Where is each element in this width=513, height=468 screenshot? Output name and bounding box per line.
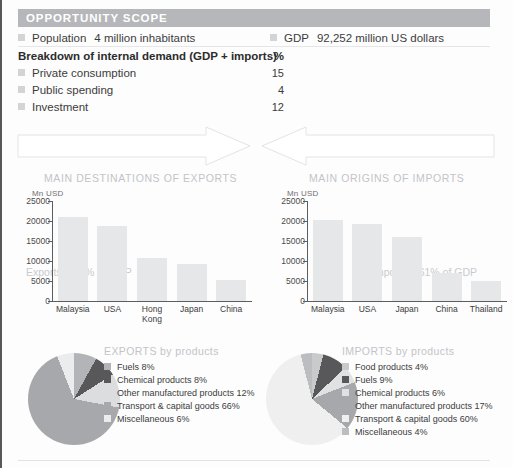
exports-chart-title: MAIN DESTINATIONS OF EXPORTS — [44, 172, 237, 184]
x-axis-labels: MalaysiaUSAJapanChinaThailand — [308, 304, 506, 314]
bar-slot — [172, 201, 212, 301]
population-value: 4 million inhabitants — [94, 32, 195, 44]
legend-label: Fuels 9% — [355, 375, 393, 385]
trade-flow-band: Exports: 180% of GDP Imports: 161% of GD… — [0, 126, 513, 172]
gdp-label: GDP — [284, 32, 309, 44]
y-axis-tick-label: 5000 — [10, 276, 50, 286]
legend-label: Transport & capital goods 66% — [117, 401, 240, 411]
plot-area: 2500020000150001000050000MalaysiaUSAJapa… — [263, 201, 513, 311]
breakdown-value-public-spending: 4 — [264, 84, 284, 96]
bar — [137, 258, 167, 301]
bar — [313, 220, 343, 301]
gdp-value: 92,252 million US dollars — [317, 32, 444, 44]
x-axis-tick-label: China — [427, 304, 467, 314]
x-axis-tick-label: China — [211, 304, 251, 324]
legend-swatch-icon — [104, 389, 111, 396]
legend-swatch-icon — [342, 402, 349, 409]
legend-item: Other manufactured products 17% — [342, 399, 513, 412]
x-axis-tick-label: Malaysia — [308, 304, 348, 314]
bar-series — [53, 201, 251, 301]
legend-swatch-icon — [104, 402, 111, 409]
bar — [471, 281, 501, 301]
gdp-group: GDP 92,252 million US dollars — [270, 29, 444, 46]
legend-item: Miscellaneous 6% — [104, 412, 279, 425]
x-axis-tick-label: Malaysia — [53, 304, 93, 324]
y-axis-tick-label: 15000 — [265, 236, 305, 246]
bar-slot — [466, 201, 506, 301]
bar-slot — [93, 201, 133, 301]
breakdown-value-investment: 12 — [264, 101, 284, 113]
legend-item: Transport & capital goods 66% — [104, 399, 279, 412]
bar-slot — [348, 201, 388, 301]
bullet-square-icon — [18, 69, 25, 76]
legend-item: Chemical products 8% — [104, 373, 279, 386]
y-axis-tick-label: 10000 — [10, 256, 50, 266]
legend-item: Chemical products 6% — [342, 386, 513, 399]
population-label: Population — [32, 32, 86, 44]
plot-area: 2500020000150001000050000MalaysiaUSAHong… — [8, 201, 258, 311]
bar-slot — [387, 201, 427, 301]
bullet-square-icon — [18, 103, 25, 110]
legend-item: Miscellaneous 4% — [342, 425, 513, 438]
legend-item: Fuels 9% — [342, 373, 513, 386]
y-axis-tick-label: 0 — [10, 296, 50, 306]
bar-slot — [308, 201, 348, 301]
table-row: Investment 12 — [18, 98, 490, 115]
table-row: Public spending 4 — [18, 81, 490, 98]
left-edge-rule — [0, 0, 2, 468]
bar — [97, 226, 127, 301]
bar — [432, 273, 462, 301]
legend-label: Other manufactured products 17% — [355, 401, 493, 411]
legend-item: Food products 4% — [342, 360, 513, 373]
y-axis-tick-label: 0 — [265, 296, 305, 306]
legend-swatch-icon — [104, 376, 111, 383]
legend-swatch-icon — [342, 389, 349, 396]
breakdown-value-private-consumption: 15 — [264, 67, 284, 79]
table-row: Private consumption 15 — [18, 64, 490, 81]
y-axis-tick-label: 15000 — [10, 236, 50, 246]
legend-label: Miscellaneous 4% — [355, 427, 428, 437]
table-row-breakdown-header: Breakdown of internal demand (GDP + impo… — [18, 47, 490, 64]
legend-item: Other manufactured products 12% — [104, 386, 279, 399]
x-axis-tick-label: USA — [348, 304, 388, 314]
bar-slot — [427, 201, 467, 301]
pie-legend: EXPORTS by productsFuels 8%Chemical prod… — [104, 345, 279, 425]
legend-label: Other manufactured products 12% — [117, 388, 255, 398]
opportunity-scope-header: OPPORTUNITY SCOPE — [18, 9, 490, 27]
bar — [58, 217, 88, 301]
breakdown-title: Breakdown of internal demand (GDP + impo… — [18, 50, 277, 62]
x-axis-tick-label: Hong Kong — [132, 304, 172, 324]
breakdown-label-private-consumption: Private consumption — [32, 67, 136, 79]
bar — [392, 237, 422, 301]
x-axis-line — [52, 301, 252, 302]
imports-chart-title: MAIN ORIGINS OF IMPORTS — [309, 172, 464, 184]
y-axis: 2500020000150001000050000 — [263, 201, 305, 311]
infographic-page: OPPORTUNITY SCOPE Population 4 million i… — [0, 0, 513, 468]
x-axis-tick-label: Japan — [172, 304, 212, 324]
legend-swatch-icon — [104, 415, 111, 422]
exports-bar-chart: Mn USD2500020000150001000050000MalaysiaU… — [8, 189, 258, 334]
x-axis-labels: MalaysiaUSAHong KongJapanChina — [53, 304, 251, 324]
x-axis-tick-label: Thailand — [466, 304, 506, 314]
legend-item: Transport & capital goods 60% — [342, 412, 513, 425]
bullet-square-icon — [270, 34, 277, 41]
imports-bar-chart: Mn USD2500020000150001000050000MalaysiaU… — [263, 189, 513, 334]
bar-slot — [211, 201, 251, 301]
breakdown-unit-header: % — [264, 50, 284, 62]
y-axis-tick-label: 25000 — [265, 196, 305, 206]
bullet-square-icon — [18, 34, 25, 41]
x-axis-line — [307, 301, 507, 302]
bar-slot — [132, 201, 172, 301]
opportunity-scope-table: Population 4 million inhabitants GDP 92,… — [18, 29, 490, 115]
pie-legend-title: IMPORTS by products — [342, 345, 513, 357]
legend-label: Transport & capital goods 60% — [355, 414, 478, 424]
legend-swatch-icon — [342, 376, 349, 383]
y-axis-tick-label: 10000 — [265, 256, 305, 266]
exports-arrow-icon — [18, 127, 250, 165]
legend-item: Fuels 8% — [104, 360, 279, 373]
x-axis-tick-label: USA — [93, 304, 133, 324]
legend-label: Food products 4% — [355, 362, 428, 372]
y-axis-tick-label: 25000 — [10, 196, 50, 206]
legend-swatch-icon — [104, 363, 111, 370]
breakdown-label-public-spending: Public spending — [32, 84, 113, 96]
